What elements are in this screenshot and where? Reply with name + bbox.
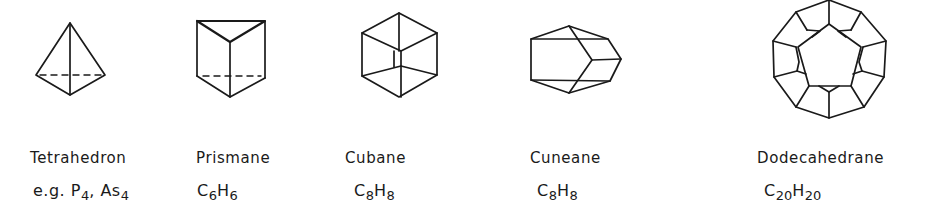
formula-cuneane: C8H8 xyxy=(537,181,578,203)
cuneane-drawing xyxy=(531,26,621,93)
separator: , xyxy=(89,181,100,200)
subscript: 8 xyxy=(386,188,394,203)
element-symbol: P xyxy=(71,181,81,200)
formula-prefix: e.g. xyxy=(33,181,71,200)
subscript: 20 xyxy=(805,188,822,203)
label-prismane: Prismane xyxy=(196,149,270,167)
label-dodecahedrane: Dodecahedrane xyxy=(757,149,884,167)
prismane-drawing xyxy=(197,21,265,97)
label-cubane: Cubane xyxy=(345,149,406,167)
element-symbol: C xyxy=(537,181,549,200)
formula-dodecahedrane: C20H20 xyxy=(764,181,821,203)
subscript: 8 xyxy=(549,188,557,203)
subscript: 6 xyxy=(209,188,217,203)
element-symbol: H xyxy=(217,181,230,200)
element-symbol: C xyxy=(354,181,366,200)
polyhedra-drawings xyxy=(0,0,933,130)
subscript: 8 xyxy=(366,188,374,203)
element-symbol: H xyxy=(792,181,805,200)
formula-tetrahedron: e.g. P4, As4 xyxy=(33,181,129,203)
subscript: 6 xyxy=(229,188,237,203)
formula-cubane: C8H8 xyxy=(354,181,395,203)
tetrahedron-drawing xyxy=(36,23,105,95)
element-symbol: C xyxy=(197,181,209,200)
subscript: 8 xyxy=(569,188,577,203)
cubane-drawing xyxy=(362,13,437,97)
label-tetrahedron: Tetrahedron xyxy=(30,149,126,167)
element-symbol: C xyxy=(764,181,776,200)
subscript: 4 xyxy=(81,188,89,203)
dodecahedrane-drawing xyxy=(773,0,886,118)
element-symbol: H xyxy=(557,181,570,200)
label-cuneane: Cuneane xyxy=(530,149,601,167)
subscript: 20 xyxy=(776,188,793,203)
element-symbol: H xyxy=(374,181,387,200)
formula-prismane: C6H6 xyxy=(197,181,238,203)
element-symbol: As xyxy=(100,181,120,200)
subscript: 4 xyxy=(121,188,129,203)
